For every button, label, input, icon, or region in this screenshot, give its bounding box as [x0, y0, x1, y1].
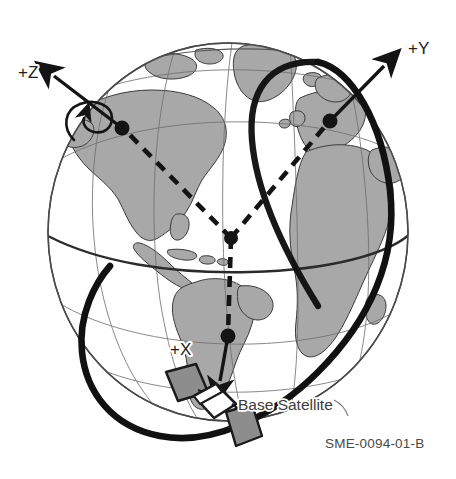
- x-axis-label: +X: [170, 340, 191, 359]
- landmass-arctic-islands: [145, 54, 197, 80]
- y-axis-label: +Y: [408, 39, 429, 58]
- satellite-label-leader: [334, 400, 348, 416]
- figure-code: SME-0094-01-B: [325, 436, 424, 451]
- landmass-asia-edge: [380, 91, 424, 136]
- landmass-caribbean-2: [199, 256, 215, 264]
- landmass-caribbean-3: [217, 259, 228, 266]
- satellite-coordinate-frame-figure: +Z +Z +Y +Y +X +X: [0, 0, 456, 479]
- earth-center-node: [224, 231, 238, 245]
- satellite-label: Base Satellite: [238, 396, 333, 413]
- z-axis-label: +Z: [18, 63, 38, 82]
- diagram-canvas: +Z +Z +Y +Y +X +X: [0, 0, 456, 479]
